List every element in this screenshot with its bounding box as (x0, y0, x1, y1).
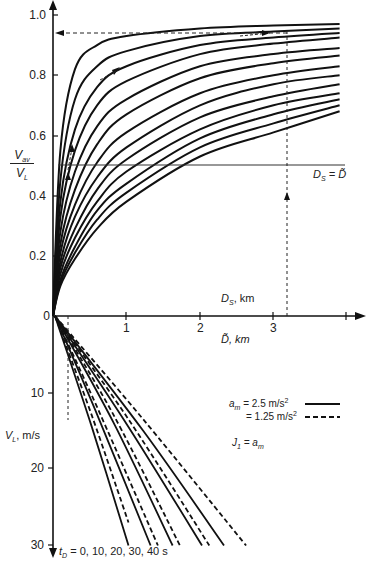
y-tick-0.6: 0.6 (16, 130, 46, 142)
lower-curve-solid (55, 316, 202, 546)
arrow-right-icon (112, 67, 120, 75)
upper-curve (53, 33, 340, 316)
x-tick-2: 2 (197, 322, 204, 334)
lower-curve-dashed (55, 316, 129, 523)
lower-curve-dashed (55, 316, 246, 546)
dtilde-km-label: D̃, km (221, 334, 250, 345)
arrow-left-icon (55, 30, 64, 36)
ds-km-label: DS, km (221, 293, 254, 304)
y-tick-10: 10 (14, 387, 44, 399)
arrow-up-small-icon (65, 172, 71, 180)
lower-curve-solid (55, 316, 173, 546)
y-tick-0.4: 0.4 (16, 190, 46, 202)
upper-curve-family (53, 24, 340, 316)
x-tick-3: 3 (270, 322, 277, 334)
x-tick-1: 1 (123, 322, 130, 334)
legend-dashed-label: = 1.25 m/s2 (246, 412, 297, 422)
upper-curve (53, 84, 340, 316)
lower-curve-family (55, 316, 246, 546)
td-label: tD = 0, 10, 20, 30, 40 s (59, 546, 168, 557)
y-tick-0.2: 0.2 (16, 250, 46, 262)
y-tick-20: 20 (14, 462, 44, 474)
upper-curve (53, 75, 340, 316)
arrow-up-icon (284, 192, 290, 200)
y-tick-1.0: 1.0 (16, 9, 46, 21)
dashed-path-segment (100, 70, 118, 80)
y-axis-arrow-down-icon (49, 548, 57, 558)
j1-label: J1 = am (232, 438, 264, 448)
legend-solid-label: am = 2.5 m/s2 (229, 399, 289, 409)
y-axis-arrow-up-icon (49, 0, 57, 10)
y-label-upper: Vav VL (10, 149, 34, 179)
y-tick-30: 30 (14, 539, 44, 551)
y-tick-0: 0 (20, 310, 50, 322)
chart-canvas (0, 0, 368, 566)
y-tick-0.8: 0.8 (16, 69, 46, 81)
vl-label: VL, m/s (5, 430, 40, 441)
ds-equals-dtilde-label: DS = D̃ (313, 169, 346, 180)
x-axis-arrow-icon (355, 312, 366, 320)
